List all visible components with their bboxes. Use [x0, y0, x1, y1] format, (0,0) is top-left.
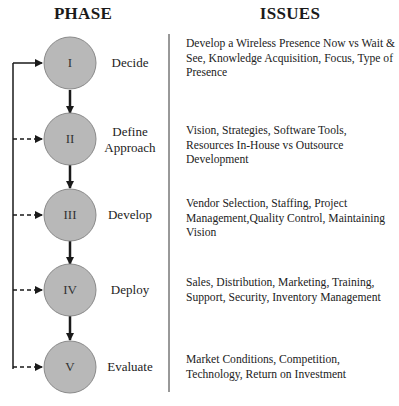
phase-4-numeral: IV	[44, 282, 96, 298]
phase-5-issues: Market Conditions, Competition, Technolo…	[186, 353, 396, 382]
phase-3-numeral: III	[44, 207, 96, 223]
phase-1-numeral: I	[44, 55, 96, 71]
phase-2-name: Define Approach	[102, 124, 158, 156]
phase-5-name: Evaluate	[102, 359, 158, 375]
phase-3-name: Develop	[102, 207, 158, 223]
phase-3-issues: Vendor Selection, Staffing, Project Mana…	[186, 197, 396, 241]
phase-4-name: Deploy	[102, 282, 158, 298]
phase-4-issues: Sales, Distribution, Marketing, Training…	[186, 276, 396, 305]
phase-2-numeral: II	[44, 131, 96, 147]
phase-2-issues: Vision, Strategies, Software Tools, Reso…	[186, 124, 396, 168]
phase-1-name: Decide	[102, 55, 158, 71]
phase-5-numeral: V	[44, 359, 96, 375]
phase-1-issues: Develop a Wireless Presence Now vs Wait …	[186, 37, 396, 81]
